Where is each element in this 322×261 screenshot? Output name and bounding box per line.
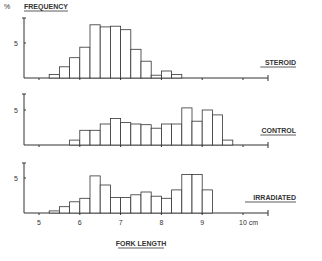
histogram-bar xyxy=(172,190,182,213)
histogram-bar xyxy=(161,71,171,78)
histogram-bar xyxy=(70,140,80,145)
y-tick-label: 5 xyxy=(14,107,18,114)
x-tick-label: 6 xyxy=(78,219,82,226)
histogram-bar xyxy=(80,47,90,78)
histogram-bar xyxy=(182,108,192,145)
histogram-bar xyxy=(202,190,212,213)
y-tick-label: 5 xyxy=(14,40,18,47)
histogram-bar xyxy=(100,27,110,78)
histogram-bar xyxy=(141,192,151,213)
histogram-bar xyxy=(90,176,100,213)
histogram-bar xyxy=(121,123,131,145)
histogram-bar xyxy=(121,198,131,213)
histogram-bar xyxy=(131,124,141,145)
histogram-bar xyxy=(131,49,141,78)
histogram-bar xyxy=(182,175,192,214)
histogram-bar xyxy=(131,195,141,213)
histogram-bar xyxy=(151,75,161,78)
y-tick-label: 5 xyxy=(14,175,18,182)
x-axis-title: FORK LENGTH xyxy=(116,240,167,247)
histogram-bar xyxy=(192,121,202,145)
histogram-bar xyxy=(100,124,110,145)
histogram-bar xyxy=(121,30,131,78)
histogram-bar xyxy=(80,198,90,213)
histogram-bar xyxy=(172,75,182,79)
histogram-bar xyxy=(59,67,69,78)
panel-label-steroid: STEROID xyxy=(265,59,296,66)
histogram-bar xyxy=(141,61,151,78)
histogram-bar xyxy=(172,124,182,145)
x-tick-label: 10 cm xyxy=(239,219,258,226)
histogram-figure: 5STEROID5CONTROL5IRRADIATED%FREQUENCY567… xyxy=(0,0,322,261)
histogram-bar xyxy=(49,211,59,213)
x-tick-label: 5 xyxy=(37,219,41,226)
histogram-bar xyxy=(70,202,80,213)
histogram-bar xyxy=(70,58,80,78)
histogram-bar xyxy=(161,124,171,145)
x-tick-label: 9 xyxy=(200,219,204,226)
histogram-bar xyxy=(59,207,69,213)
histogram-bar xyxy=(80,130,90,145)
histogram-bar xyxy=(100,185,110,213)
y-axis-title: FREQUENCY xyxy=(24,3,68,11)
histogram-bar xyxy=(151,128,161,145)
histogram-bar xyxy=(49,75,59,79)
histogram-bar xyxy=(192,175,202,214)
panel-label-control: CONTROL xyxy=(261,127,296,134)
histogram-bar xyxy=(90,25,100,78)
histogram-bar xyxy=(212,115,222,145)
histogram-bar xyxy=(202,110,212,145)
histogram-bar xyxy=(141,125,151,145)
x-tick-label: 7 xyxy=(119,219,123,226)
histogram-bar xyxy=(110,26,120,78)
histogram-bar xyxy=(161,198,171,213)
histogram-bar xyxy=(223,140,233,145)
y-axis-percent-sign: % xyxy=(4,3,10,10)
chart-canvas: 5STEROID5CONTROL5IRRADIATED%FREQUENCY567… xyxy=(0,0,322,261)
x-tick-label: 8 xyxy=(159,219,163,226)
panel-label-irradiated: IRRADIATED xyxy=(253,194,296,201)
histogram-bar xyxy=(151,196,161,213)
histogram-bar xyxy=(110,198,120,213)
histogram-bar xyxy=(90,130,100,145)
histogram-bar xyxy=(110,118,120,145)
